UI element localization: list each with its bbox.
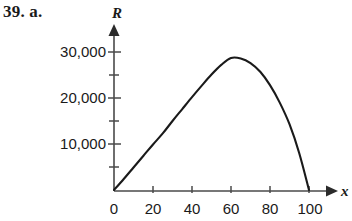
revenue-curve (114, 57, 309, 190)
x-tick-label-60: 60 (223, 200, 240, 217)
y-tick-label-20000: 20,000 (60, 89, 106, 106)
revenue-curve-figure: 0 20 40 60 80 100 10,000 20,000 30,000 R… (0, 0, 352, 221)
x-tick-label-80: 80 (262, 200, 279, 217)
x-tick-label-0: 0 (110, 200, 118, 217)
x-tick-label-20: 20 (145, 200, 162, 217)
x-tick-label-100: 100 (297, 200, 322, 217)
x-tick-label-40: 40 (184, 200, 201, 217)
figure-page: 39. a. 0 20 40 60 8 (0, 0, 352, 221)
y-tick-label-30000: 30,000 (60, 43, 106, 60)
x-axis-ticks (153, 186, 309, 193)
y-tick-label-10000: 10,000 (60, 135, 106, 152)
x-axis-title: x (340, 183, 349, 199)
y-axis-title: R (111, 5, 122, 21)
x-axis-arrow-icon (326, 186, 338, 197)
y-axis-arrow-icon (109, 24, 120, 36)
